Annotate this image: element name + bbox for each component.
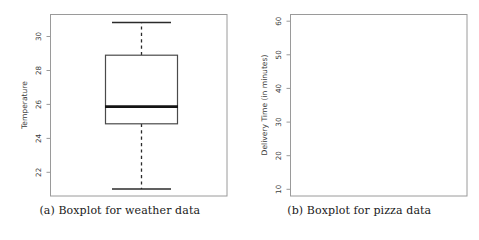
y-tick-labels: 22 24 26 28 30	[34, 32, 43, 177]
box-iqr	[106, 55, 178, 124]
subfigure-caption-weather: (a) Boxplot for weather data	[0, 204, 240, 217]
y-axis-title: Delivery Time (in minutes)	[260, 54, 269, 155]
y-tick-label: 60	[274, 16, 283, 26]
y-tick-label: 30	[274, 117, 283, 127]
y-tick-label: 40	[274, 83, 283, 93]
y-tick-label: 50	[274, 50, 283, 60]
y-tick-labels: 10 20 30 40 50 60	[274, 16, 283, 194]
y-axis-title: Temperature	[20, 81, 29, 130]
subfigure-caption-pizza: (b) Boxplot for pizza data	[240, 204, 479, 217]
y-tick-label: 10	[274, 184, 283, 194]
y-tick-marks	[47, 37, 51, 173]
y-tick-label: 22	[34, 168, 43, 177]
y-tick-label: 28	[34, 66, 43, 76]
y-tick-label: 24	[34, 133, 43, 143]
boxplot-weather: 22 24 26 28 30 Temperature	[0, 0, 240, 204]
subfigure-pizza: 10 20 30 40 50 60 Delivery Time (in minu…	[240, 0, 479, 240]
plot-frame	[290, 15, 467, 197]
y-tick-label: 20	[274, 151, 283, 161]
boxplot-pizza: 10 20 30 40 50 60 Delivery Time (in minu…	[240, 0, 479, 204]
y-tick-label: 26	[34, 99, 43, 109]
y-tick-label: 30	[34, 32, 43, 42]
y-tick-marks	[286, 21, 290, 189]
figure-container: 22 24 26 28 30 Temperature	[0, 0, 479, 240]
subfigure-weather: 22 24 26 28 30 Temperature	[0, 0, 240, 240]
